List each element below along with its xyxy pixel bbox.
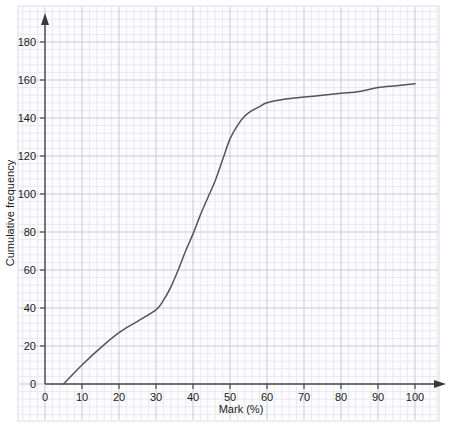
x-axis-tick-label: 60 — [261, 391, 273, 403]
x-axis-tick-label: 30 — [150, 391, 162, 403]
x-axis-title: Mark (%) — [219, 403, 264, 415]
x-axis-tick-label: 70 — [298, 391, 310, 403]
y-axis-tick-label: 20 — [24, 340, 36, 352]
y-axis-title: Cumulative frequency — [4, 159, 16, 266]
x-axis-tick-label: 100 — [406, 391, 424, 403]
y-axis-tick-label: 100 — [18, 188, 36, 200]
y-axis-tick-label: 160 — [18, 74, 36, 86]
y-axis-tick-label: 40 — [24, 302, 36, 314]
chart-page: 0102030405060708090100 02040608010012014… — [0, 0, 460, 430]
cumulative-frequency-chart: 0102030405060708090100 02040608010012014… — [0, 0, 460, 430]
y-axis-tick-label: 140 — [18, 112, 36, 124]
y-axis-tick-label: 80 — [24, 226, 36, 238]
y-axis-tick-label: 180 — [18, 36, 36, 48]
x-axis-tick-label: 10 — [76, 391, 88, 403]
x-axis-tick-label: 90 — [372, 391, 384, 403]
x-axis-tick-label: 50 — [224, 391, 236, 403]
graph-paper-background — [18, 6, 439, 421]
x-axis-tick-label: 20 — [113, 391, 125, 403]
y-axis-tick-label: 120 — [18, 150, 36, 162]
x-axis-tick-label: 80 — [335, 391, 347, 403]
y-axis-tick-label: 0 — [30, 378, 36, 390]
x-axis-tick-label: 0 — [42, 391, 48, 403]
y-axis-tick-label: 60 — [24, 264, 36, 276]
x-axis-arrow-icon — [434, 380, 446, 388]
x-axis-tick-label: 40 — [187, 391, 199, 403]
